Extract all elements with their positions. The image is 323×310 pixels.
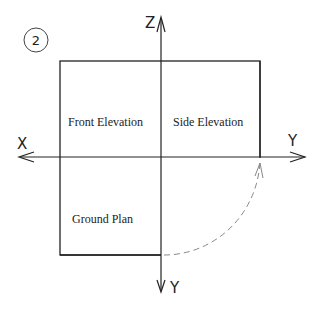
- z-axis-label: Z: [145, 14, 155, 32]
- badge-label: 2: [32, 33, 40, 48]
- side-elevation-label: Side Elevation: [173, 115, 243, 129]
- front-elevation-label: Front Elevation: [68, 115, 143, 129]
- figure-number-badge: 2: [24, 28, 48, 52]
- x-axis-label: X: [17, 135, 27, 153]
- y-down-axis-label: Y: [169, 279, 180, 297]
- projection-diagram: 2 Z Y X Y Front Elevation Side Elevation…: [0, 0, 323, 310]
- y-right-axis-label: Y: [287, 132, 298, 150]
- ground-plan-label: Ground Plan: [72, 212, 133, 226]
